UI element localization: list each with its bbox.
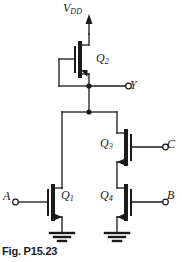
- figure-page: VDD Q2 Y Q3 C A Q1 Q4 B Fig. P15.23: [0, 0, 182, 262]
- q3-source-arrow: [117, 159, 125, 166]
- vdd-arrow-head: [86, 14, 93, 24]
- label-output-y: Y: [130, 79, 137, 91]
- q4-source-arrow: [117, 214, 125, 221]
- label-input-b: B: [167, 189, 174, 201]
- figure-caption: Fig. P15.23: [2, 245, 57, 257]
- circuit-schematic: [0, 0, 182, 262]
- input-a-terminal: [13, 199, 19, 205]
- label-q1: Q1: [61, 189, 74, 203]
- label-vdd: VDD: [63, 2, 82, 16]
- q1-source-arrow: [54, 214, 62, 221]
- label-q4: Q4: [100, 189, 113, 203]
- label-q2: Q2: [96, 52, 109, 66]
- label-input-c: C: [167, 138, 175, 150]
- label-q3: Q3: [100, 137, 113, 151]
- label-input-a: A: [3, 190, 10, 202]
